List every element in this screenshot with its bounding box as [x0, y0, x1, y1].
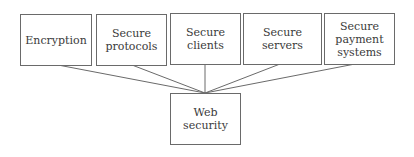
- node-secure-servers: Secure servers: [243, 13, 322, 65]
- node-label: Secure servers: [262, 26, 303, 52]
- edge-secure-payment-systems: [205, 64, 355, 93]
- node-label: Secure payment systems: [335, 20, 383, 59]
- node-secure-protocols: Secure protocols: [96, 14, 167, 66]
- node-label: Web security: [171, 106, 240, 132]
- edge-encryption: [58, 65, 205, 93]
- node-label: Secure clients: [186, 26, 225, 52]
- node-encryption: Encryption: [20, 14, 92, 66]
- node-label: Secure protocols: [106, 27, 158, 53]
- node-label: Encryption: [25, 34, 86, 47]
- node-secure-payment-systems: Secure payment systems: [324, 13, 395, 65]
- node-secure-clients: Secure clients: [170, 13, 241, 65]
- edge-secure-protocols: [132, 65, 205, 93]
- node-web-security: Web security: [170, 93, 241, 145]
- edge-secure-servers: [205, 64, 280, 93]
